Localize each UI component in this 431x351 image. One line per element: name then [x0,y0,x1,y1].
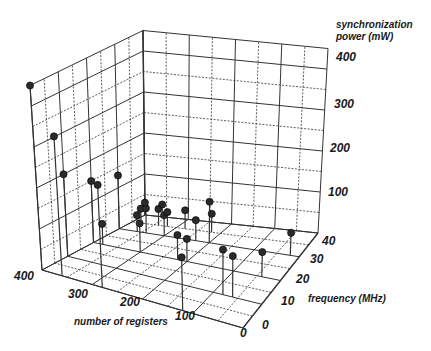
back-wall-grid-line [166,33,167,218]
data-point [133,212,140,219]
data-point [192,217,199,224]
x-tick-300: 300 [68,287,88,301]
3d-stem-chart: 400 300 200 100 0 number of registers 0 … [0,0,431,351]
x-tick-400: 400 [13,269,34,283]
data-point [99,220,106,227]
y-tick-10: 10 [281,294,295,308]
data-point [259,249,266,256]
left-wall-grid-line [35,113,144,168]
y-tick-20: 20 [295,272,310,286]
back-wall-grid-line [275,44,282,229]
axes-frame [30,31,328,329]
z-axis-title-line1: synchronization [336,19,413,30]
z-tick-200: 200 [329,141,350,155]
left-wall-grid-line [33,72,144,127]
data-point [50,133,57,140]
data-point [159,201,166,208]
data-point [164,209,171,216]
back-wall-grid-line [210,37,213,222]
left-wall-grid-line [44,79,55,264]
data-point [208,210,215,217]
x-tick-200: 200 [119,295,140,309]
back-wall-grid-line [253,42,259,227]
data-stem [98,185,103,288]
z-tick-300: 300 [334,97,354,111]
data-stem [140,223,141,252]
corner-edge-line [143,31,145,216]
data-point [94,181,101,188]
x-tick-0: 0 [240,326,247,340]
z-tick-100: 100 [328,185,348,199]
data-stem [91,181,93,243]
z-axis-title-line2: power (mW) [335,31,394,42]
z-tick-400: 400 [335,50,356,64]
left-wall-grid-line [72,65,80,250]
data-point [114,172,121,179]
data-point [219,246,226,253]
data-point [182,207,189,214]
back-wall-grid-line [318,49,328,234]
y-tick-40: 40 [321,234,336,248]
data-point [26,82,33,89]
data-stem [30,86,42,271]
left-wall-grid-line [31,51,143,106]
data-stem [64,174,68,256]
data-point [141,199,148,206]
data-stem [118,175,119,228]
x-axis-title: number of registers [74,316,168,327]
left-wall-grid-line [101,51,107,236]
left-wall-grid-line [34,92,144,147]
data-point [183,235,190,242]
data-point [60,171,67,178]
data-point [206,198,213,205]
y-tick-0: 0 [262,318,269,332]
back-wall-grid-line [232,40,236,225]
data-point [229,252,236,259]
y-tick-30: 30 [310,252,324,266]
data-point [174,231,181,238]
back-wall-grid-line [188,35,189,220]
left-wall-grid-line [129,37,132,222]
back-wall-grid-line [296,46,305,231]
x-tick-100: 100 [175,309,195,323]
data-point [88,177,95,184]
data-point [178,254,185,261]
left-wall-grid-line [30,31,143,86]
data-point [287,229,294,236]
data-stem [54,136,62,275]
y-axis-title: frequency (MHz) [308,293,386,304]
